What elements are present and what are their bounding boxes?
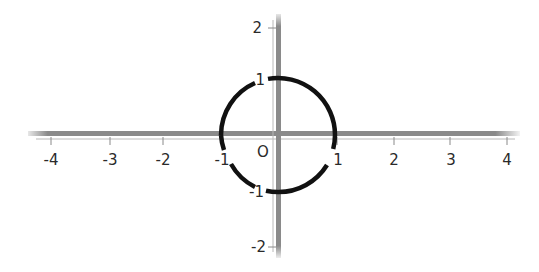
- x-tick-label: -4: [44, 151, 59, 169]
- y-tick-label: -1: [249, 183, 264, 201]
- y-tick-label: -2: [251, 238, 266, 256]
- x-tick-label: 2: [389, 151, 399, 169]
- x-tick-label: 4: [502, 151, 512, 169]
- unit-circle-arc-q4b: [278, 165, 327, 192]
- y-axis-ticks: [268, 28, 276, 247]
- x-tick-label: -3: [103, 151, 118, 169]
- unit-circle-arc-q2: [221, 83, 255, 135]
- x-tick-label: -2: [156, 151, 171, 169]
- unit-circle-arc-q3a: [266, 191, 278, 192]
- y-axis-labels: 2 1 -1 -2: [249, 19, 266, 256]
- y-tick-label: 2: [252, 19, 262, 37]
- x-tick-label: 1: [333, 151, 343, 169]
- y-tick-label: 1: [255, 71, 265, 89]
- coordinate-plane: -4 -3 -2 -1 1 2 3 4 2 1 -1 -2 O: [0, 0, 539, 272]
- unit-circle-arc-q3c: [221, 135, 224, 150]
- unit-circle-arc-q4a: [333, 135, 335, 149]
- x-tick-label: -1: [215, 151, 230, 169]
- x-axis: [28, 131, 520, 145]
- x-tick-label: 3: [446, 151, 456, 169]
- origin-label: O: [257, 143, 269, 161]
